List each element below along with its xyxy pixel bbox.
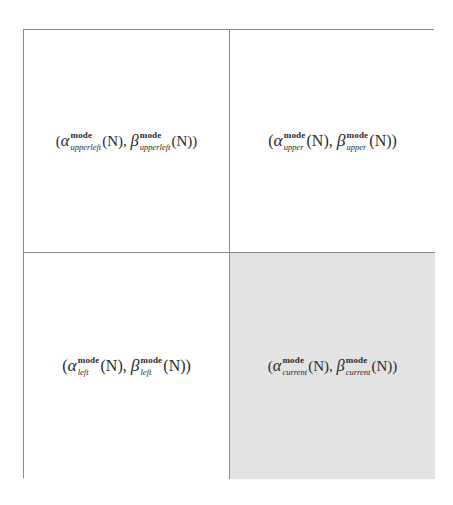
beta-scripts: mode left xyxy=(141,356,163,377)
alpha-scripts: mode left xyxy=(78,356,100,377)
close-paren: ) xyxy=(192,134,197,149)
superscript: mode xyxy=(282,356,304,365)
subscript: upper xyxy=(284,143,304,152)
alpha-scripts: mode current xyxy=(282,356,307,377)
argument: (N) xyxy=(308,359,329,374)
alpha-symbol: α xyxy=(273,132,282,150)
alpha-scripts: mode upperleft xyxy=(70,131,101,152)
cell-upper-left: ( α mode upperleft (N) , β mode upperlef… xyxy=(24,30,230,253)
argument: (N) xyxy=(171,134,192,149)
subscript: current xyxy=(346,368,371,377)
formula-left: ( α mode left (N) , β mode left (N) ) xyxy=(62,356,191,377)
superscript: mode xyxy=(346,356,368,365)
separator: , xyxy=(123,358,131,374)
superscript: mode xyxy=(70,131,92,140)
subscript: upperleft xyxy=(70,143,101,152)
subscript: upperleft xyxy=(140,143,171,152)
separator: , xyxy=(329,133,337,149)
alpha-symbol: α xyxy=(61,133,70,150)
alpha-symbol: α xyxy=(67,357,76,375)
beta-symbol: β xyxy=(131,357,140,375)
argument: (N) xyxy=(102,134,123,149)
beta-scripts: mode current xyxy=(346,356,371,377)
formula-upperleft: ( α mode upperleft (N) , β mode upperlef… xyxy=(56,131,197,152)
superscript: mode xyxy=(141,356,163,365)
subscript: left xyxy=(141,368,152,377)
superscript: mode xyxy=(78,356,100,365)
superscript: mode xyxy=(140,131,162,140)
cell-current: ( α mode current (N) , β mode current (N… xyxy=(230,253,435,479)
superscript: mode xyxy=(284,131,306,140)
formula-current: ( α mode current (N) , β mode current (N… xyxy=(268,356,397,377)
alpha-scripts: mode upper xyxy=(284,131,306,152)
subscript: current xyxy=(282,368,307,377)
alpha-symbol: α xyxy=(273,358,282,375)
argument: (N) xyxy=(371,359,392,374)
beta-symbol: β xyxy=(337,132,346,150)
argument: (N) xyxy=(307,133,329,149)
beta-symbol: β xyxy=(130,133,138,150)
beta-scripts: mode upper xyxy=(347,131,369,152)
argument: (N) xyxy=(369,133,391,149)
argument: (N) xyxy=(163,358,185,374)
close-paren: ) xyxy=(392,359,397,374)
close-paren: ) xyxy=(186,358,191,374)
superscript: mode xyxy=(347,131,369,140)
formula-upper: ( α mode upper (N) , β mode upper (N) ) xyxy=(268,131,397,152)
close-paren: ) xyxy=(392,133,397,149)
argument: (N) xyxy=(101,358,123,374)
subscript: left xyxy=(78,368,89,377)
subscript: upper xyxy=(347,143,367,152)
beta-scripts: mode upperleft xyxy=(140,131,171,152)
cell-upper: ( α mode upper (N) , β mode upper (N) ) xyxy=(230,30,435,253)
cell-left: ( α mode left (N) , β mode left (N) ) xyxy=(24,253,230,479)
mode-grid-diagram: ( α mode upperleft (N) , β mode upperlef… xyxy=(23,29,434,478)
beta-symbol: β xyxy=(336,358,344,375)
